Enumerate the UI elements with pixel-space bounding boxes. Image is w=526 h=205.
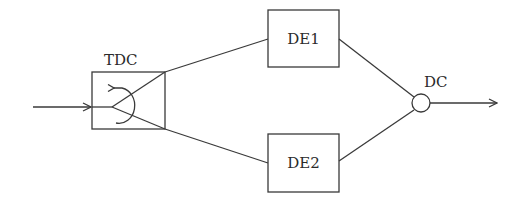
edge-tdc-de1	[165, 39, 268, 72]
tdc-block	[92, 72, 165, 129]
de1-label: DE1	[287, 30, 320, 48]
de1-block: DE1	[268, 10, 339, 67]
dc-combiner	[412, 94, 430, 112]
edge-de2-dc	[339, 110, 414, 161]
de2-block: DE2	[268, 134, 339, 192]
tdc-label: TDC	[104, 51, 138, 69]
edge-de1-dc	[339, 39, 414, 97]
de2-label: DE2	[287, 154, 320, 172]
diagram-canvas: TDC DE1 DE2 DC	[0, 0, 526, 205]
dc-label: DC	[424, 73, 448, 91]
edge-tdc-de2	[165, 129, 268, 163]
